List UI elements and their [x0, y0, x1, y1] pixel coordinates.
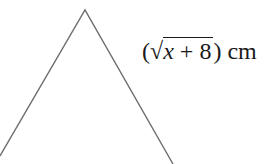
triangle-diagram	[0, 0, 278, 164]
square-root: √x + 8	[150, 37, 213, 63]
open-paren: (	[142, 38, 150, 64]
variable-x: x	[163, 38, 174, 64]
close-paren: )	[213, 38, 221, 64]
unit-cm: cm	[227, 38, 256, 64]
radicand: x + 8	[163, 37, 213, 63]
triangle-sides	[0, 10, 173, 164]
constant-8: 8	[199, 38, 211, 64]
side-length-label: (√x + 8) cm	[142, 37, 257, 63]
radical-sign-icon: √	[150, 38, 163, 64]
plus-operator: +	[174, 38, 200, 64]
